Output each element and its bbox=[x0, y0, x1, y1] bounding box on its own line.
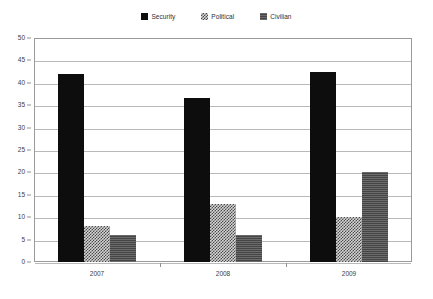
y-tick-label: 25 bbox=[18, 147, 25, 154]
x-tick-label-2009: 2009 bbox=[342, 270, 356, 277]
y-tick-label: 10 bbox=[18, 214, 25, 221]
y-tick-label: 35 bbox=[18, 102, 25, 109]
bar-chart: SecurityPoliticalCivilian 05101520253035… bbox=[0, 0, 433, 299]
plot-area bbox=[34, 38, 412, 262]
gridlines bbox=[35, 39, 411, 261]
legend-swatch-political-icon bbox=[201, 13, 208, 20]
legend-item-civilian[interactable]: Civilian bbox=[260, 13, 291, 20]
y-tick-label: 0 bbox=[21, 259, 25, 266]
y-tick-mark bbox=[27, 60, 31, 61]
y-tick-label: 40 bbox=[18, 80, 25, 87]
x-tick-label-2008: 2008 bbox=[216, 270, 230, 277]
y-tick-label: 5 bbox=[21, 236, 25, 243]
x-axis: 200720082009 bbox=[34, 263, 412, 283]
gridline bbox=[35, 173, 411, 174]
y-tick-label: 15 bbox=[18, 192, 25, 199]
gridline bbox=[35, 61, 411, 62]
y-tick-mark bbox=[27, 172, 31, 173]
y-tick-mark bbox=[27, 194, 31, 195]
legend-label: Political bbox=[211, 13, 234, 20]
y-axis: 05101520253035404550 bbox=[0, 38, 31, 262]
legend-label: Civilian bbox=[270, 13, 291, 20]
chart-legend: SecurityPoliticalCivilian bbox=[0, 9, 433, 23]
y-tick-mark bbox=[27, 82, 31, 83]
x-tick-mark bbox=[286, 263, 287, 267]
legend-item-security[interactable]: Security bbox=[141, 13, 175, 20]
y-tick-label: 20 bbox=[18, 169, 25, 176]
legend-item-political[interactable]: Political bbox=[201, 13, 234, 20]
y-tick-label: 50 bbox=[18, 35, 25, 42]
gridline bbox=[35, 129, 411, 130]
gridline bbox=[35, 151, 411, 152]
x-tick-mark bbox=[160, 263, 161, 267]
y-tick-mark bbox=[27, 217, 31, 218]
y-tick-label: 30 bbox=[18, 124, 25, 131]
gridline bbox=[35, 218, 411, 219]
y-tick-mark bbox=[27, 127, 31, 128]
y-tick-mark bbox=[27, 239, 31, 240]
legend-label: Security bbox=[151, 13, 175, 20]
legend-swatch-security-icon bbox=[141, 13, 148, 20]
y-tick-mark bbox=[27, 262, 31, 263]
legend-swatch-civilian-icon bbox=[260, 13, 267, 20]
x-tick-label-2007: 2007 bbox=[90, 270, 104, 277]
y-tick-label: 45 bbox=[18, 57, 25, 64]
y-tick-mark bbox=[27, 38, 31, 39]
y-tick-mark bbox=[27, 105, 31, 106]
gridline bbox=[35, 84, 411, 85]
gridline bbox=[35, 106, 411, 107]
gridline bbox=[35, 196, 411, 197]
y-tick-mark bbox=[27, 150, 31, 151]
gridline bbox=[35, 241, 411, 242]
